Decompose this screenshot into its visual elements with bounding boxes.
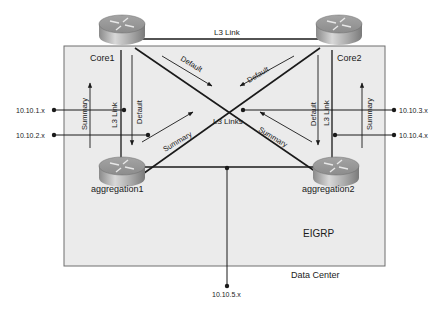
region-label: Data Center	[291, 270, 340, 280]
net1-endpoint	[52, 108, 56, 112]
router-core2[interactable]	[316, 15, 362, 45]
router-aggregation1[interactable]	[99, 157, 145, 187]
default-right-label: Default	[309, 101, 318, 126]
net3-junction	[241, 108, 245, 112]
net4-label: 10.10.4.x	[399, 132, 428, 139]
default-left-label: Default	[135, 99, 144, 124]
summary-right-label: Summary	[365, 98, 374, 130]
core1-label: Core1	[90, 53, 115, 63]
net3-endpoint	[392, 108, 396, 112]
data-center-region	[64, 46, 385, 266]
core-link-label: L3 Link	[214, 28, 241, 37]
net1-junction	[122, 108, 126, 112]
net2-junction	[146, 133, 150, 137]
right-vertical-link-label: L3 Link	[322, 99, 331, 126]
left-vertical-link-label: L3 Link	[110, 101, 119, 128]
net3-label: 10.10.3.x	[399, 107, 428, 114]
router-core1[interactable]	[99, 15, 145, 45]
cross-links-label: L3 Links	[213, 117, 243, 126]
net2-label: 10.10.2.x	[16, 132, 45, 139]
net5-endpoint	[225, 284, 229, 288]
router-aggregation2[interactable]	[313, 157, 359, 187]
aggregation2-label: aggregation2	[302, 184, 355, 194]
protocol-label: EIGRP	[303, 228, 334, 239]
net4-endpoint	[392, 133, 396, 137]
net5-label: 10.10.5.x	[212, 291, 241, 298]
net1-label: 10.10.1.x	[16, 107, 45, 114]
net2-endpoint	[52, 133, 56, 137]
aggregation1-label: aggregation1	[91, 184, 144, 194]
network-diagram: L3 Link L3 Link L3 Link L3 Links 10.10.5…	[0, 0, 445, 314]
net4-junction	[333, 133, 337, 137]
summary-left-label: Summary	[80, 98, 89, 130]
core2-label: Core2	[337, 53, 362, 63]
